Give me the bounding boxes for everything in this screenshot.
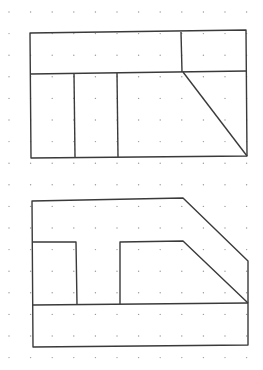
grid-dot xyxy=(95,33,96,34)
grid-dot xyxy=(160,206,161,207)
grid-dot xyxy=(224,271,225,272)
grid-dot xyxy=(138,292,139,293)
grid-dot xyxy=(138,55,139,56)
grid-dot xyxy=(138,98,139,99)
grid-dot xyxy=(203,314,204,315)
grid-dot xyxy=(8,119,9,120)
grid-dot xyxy=(181,184,182,185)
grid-dot xyxy=(95,11,96,12)
grid-dot xyxy=(203,335,204,336)
grid-dot xyxy=(138,314,139,315)
grid-dot xyxy=(73,33,74,34)
grid-dot xyxy=(116,227,117,228)
grid-dot xyxy=(203,271,204,272)
grid-dot xyxy=(138,249,139,250)
grid-dot xyxy=(203,184,204,185)
grid-dot xyxy=(181,76,182,77)
grid-dot xyxy=(8,314,9,315)
grid-dot xyxy=(203,163,204,164)
grid-dot xyxy=(160,357,161,358)
grid-dot xyxy=(52,292,53,293)
grid-dot xyxy=(116,33,117,34)
grid-dot xyxy=(181,227,182,228)
grid-dot xyxy=(246,249,247,250)
grid-dot xyxy=(224,141,225,142)
grid-dot xyxy=(8,206,9,207)
grid-dot xyxy=(95,227,96,228)
grid-dot xyxy=(181,335,182,336)
grid-dot xyxy=(30,357,31,358)
grid-dot xyxy=(181,141,182,142)
grid-dot xyxy=(224,249,225,250)
grid-dot xyxy=(95,206,96,207)
grid-dot xyxy=(138,227,139,228)
grid-dot xyxy=(52,163,53,164)
grid-dot xyxy=(160,33,161,34)
grid-dot xyxy=(30,335,31,336)
grid-dot xyxy=(246,11,247,12)
grid-dot xyxy=(203,55,204,56)
grid-dot xyxy=(224,314,225,315)
grid-dot xyxy=(160,271,161,272)
grid-dot xyxy=(181,249,182,250)
grid-dot xyxy=(160,163,161,164)
grid-dot xyxy=(224,33,225,34)
grid-dot xyxy=(52,227,53,228)
top-left-column-divider xyxy=(74,74,75,157)
grid-dot xyxy=(203,357,204,358)
grid-dot xyxy=(8,227,9,228)
top-horizontal-divider xyxy=(30,71,247,74)
grid-dot xyxy=(95,98,96,99)
grid-dot xyxy=(116,11,117,12)
grid-dot xyxy=(203,292,204,293)
grid-dot xyxy=(95,314,96,315)
grid-dot xyxy=(52,271,53,272)
grid-dot xyxy=(246,271,247,272)
grid-dot xyxy=(246,163,247,164)
grid-dot xyxy=(116,292,117,293)
grid-dot xyxy=(30,163,31,164)
grid-dot xyxy=(95,184,96,185)
grid-dot xyxy=(95,249,96,250)
grid-dot xyxy=(116,163,117,164)
grid-dot xyxy=(224,76,225,77)
grid-dot xyxy=(8,163,9,164)
grid-dot xyxy=(95,271,96,272)
grid-dot xyxy=(52,119,53,120)
grid-dot xyxy=(203,11,204,12)
grid-dot xyxy=(116,357,117,358)
grid-dot xyxy=(95,357,96,358)
grid-dot xyxy=(52,76,53,77)
grid-dot xyxy=(8,11,9,12)
grid-dot xyxy=(52,206,53,207)
grid-dot xyxy=(160,314,161,315)
grid-dot xyxy=(181,119,182,120)
grid-dot xyxy=(73,314,74,315)
top-chamfer-diagonal xyxy=(183,72,247,156)
grid-dot xyxy=(224,98,225,99)
grid-dot xyxy=(95,76,96,77)
grid-dot xyxy=(224,357,225,358)
grid-dot xyxy=(160,184,161,185)
grid-dot xyxy=(181,98,182,99)
grid-dot xyxy=(52,335,53,336)
grid-dot xyxy=(203,119,204,120)
grid-dot xyxy=(203,33,204,34)
grid-dot xyxy=(246,357,247,358)
grid-dot xyxy=(116,249,117,250)
diagram-canvas xyxy=(0,0,263,370)
top-figure xyxy=(30,30,247,158)
grid-dot xyxy=(95,55,96,56)
grid-dot xyxy=(52,98,53,99)
grid-dot xyxy=(138,184,139,185)
grid-dot xyxy=(224,184,225,185)
grid-dot xyxy=(73,292,74,293)
bottom-right-stepped-notch xyxy=(120,241,248,304)
grid-dot xyxy=(160,98,161,99)
grid-dot xyxy=(73,335,74,336)
grid-dot xyxy=(224,55,225,56)
grid-dot xyxy=(73,184,74,185)
grid-dot xyxy=(160,227,161,228)
grid-dot xyxy=(8,76,9,77)
grid-dot xyxy=(224,163,225,164)
